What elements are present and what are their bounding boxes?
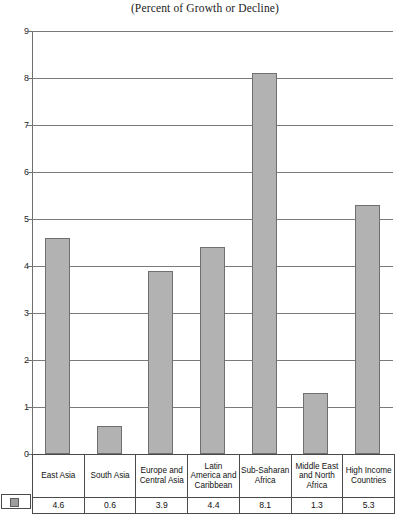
chart-title: (Percent of Growth or Decline) <box>0 2 410 14</box>
gridline-6 <box>32 172 393 173</box>
y-tick-label-3: 3 <box>5 308 29 318</box>
y-axis-labels: 9876543210 <box>0 0 29 511</box>
y-tick-label-1: 1 <box>5 402 29 412</box>
y-tick-label-6: 6 <box>5 167 29 177</box>
y-tick-label-5: 5 <box>5 214 29 224</box>
gridline-8 <box>32 78 393 79</box>
table-row-values: 4.60.63.94.48.11.35.3 <box>33 498 395 514</box>
bar-5 <box>303 393 328 454</box>
legend-spacer-cell <box>1 454 31 494</box>
bar-2 <box>148 271 173 454</box>
table-cell-category-5: Middle East and North Africa <box>291 455 343 498</box>
table-cell-value-3: 4.4 <box>188 498 240 514</box>
table-cell-category-0: East Asia <box>33 455 85 498</box>
table-cell-value-6: 5.3 <box>343 498 395 514</box>
data-table: East AsiaSouth AsiaEurope and Central As… <box>32 454 395 514</box>
gridline-7 <box>32 125 393 126</box>
legend-cell <box>1 494 31 509</box>
table-cell-value-1: 0.6 <box>84 498 136 514</box>
gridline-5 <box>32 219 393 220</box>
table-row-categories: East AsiaSouth AsiaEurope and Central As… <box>33 455 395 498</box>
bar-6 <box>355 205 380 454</box>
bar-1 <box>97 426 122 454</box>
legend-swatch-icon <box>10 498 19 507</box>
bar-4 <box>252 73 277 454</box>
table-cell-value-0: 4.6 <box>33 498 85 514</box>
table-cell-value-2: 3.9 <box>136 498 188 514</box>
y-tick-label-8: 8 <box>5 73 29 83</box>
table-cell-value-5: 1.3 <box>291 498 343 514</box>
y-tick-label-4: 4 <box>5 261 29 271</box>
y-tick-label-9: 9 <box>5 26 29 36</box>
table-cell-category-1: South Asia <box>84 455 136 498</box>
table-cell-value-4: 8.1 <box>239 498 291 514</box>
y-tick-label-2: 2 <box>5 355 29 365</box>
plot-area <box>32 31 393 454</box>
table-cell-category-2: Europe and Central Asia <box>136 455 188 498</box>
bar-0 <box>45 238 70 454</box>
table-cell-category-3: Latin America and Caribbean <box>188 455 240 498</box>
gridline-9 <box>32 31 393 32</box>
y-tick-label-7: 7 <box>5 120 29 130</box>
table-cell-category-4: Sub-Saharan Africa <box>239 455 291 498</box>
table-cell-category-6: High Income Countries <box>343 455 395 498</box>
bar-3 <box>200 247 225 454</box>
